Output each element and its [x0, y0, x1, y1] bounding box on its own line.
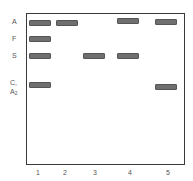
row-label-S: S	[12, 52, 17, 60]
lane-label-4: 4	[125, 169, 135, 177]
lane-label-5: 5	[163, 169, 173, 177]
band-lane2-A	[56, 20, 78, 26]
lane-label-1: 1	[33, 169, 43, 177]
band-lane5-A	[155, 19, 177, 25]
band-lane1-F	[29, 36, 51, 42]
band-lane1-A	[29, 20, 51, 26]
row-label-A2-sub: 2	[15, 90, 18, 96]
band-lane4-A	[117, 18, 139, 24]
band-lane4-S	[117, 53, 139, 59]
band-lane1-C-A2	[29, 82, 51, 88]
lane-label-2: 2	[60, 169, 70, 177]
lane-label-3: 3	[90, 169, 100, 177]
band-lane1-S	[29, 53, 51, 59]
row-label-A: A	[12, 18, 17, 26]
row-label-F: F	[12, 35, 16, 43]
row-label-A2: A2	[10, 88, 17, 97]
row-label-C: C,	[10, 79, 17, 87]
band-lane3-S	[83, 53, 105, 59]
band-lane5-C-A2	[155, 84, 177, 90]
